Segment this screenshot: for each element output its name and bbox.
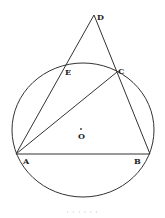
figure-caption: · · · · · ·: [0, 208, 165, 215]
geometry-diagram: D E C O A B: [0, 0, 165, 218]
circle-o: [12, 63, 154, 197]
segment-bd: [94, 15, 150, 154]
label-o: O: [78, 131, 85, 141]
label-e: E: [65, 67, 71, 77]
center-dot: [80, 128, 82, 130]
label-d: D: [97, 12, 104, 22]
label-b: B: [134, 156, 141, 166]
label-c: C: [118, 66, 124, 76]
label-a: A: [22, 156, 30, 166]
